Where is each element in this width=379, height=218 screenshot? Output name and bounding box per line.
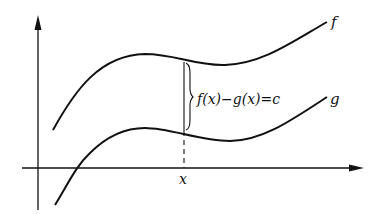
annotation-label: f(x)−g(x)=c <box>196 91 280 107</box>
curve-g-label: g <box>330 90 340 108</box>
function-difference-diagram: f(x)−g(x)=c f g x <box>0 0 379 218</box>
y-axis-arrow-icon <box>35 15 42 30</box>
y-axis <box>35 15 42 210</box>
x-axis <box>22 165 364 172</box>
curve-f-label: f <box>330 13 339 31</box>
brace-icon <box>186 63 193 130</box>
x-marker-label: x <box>179 171 187 187</box>
x-axis-arrow-icon <box>349 165 364 172</box>
curve-g <box>55 97 327 205</box>
